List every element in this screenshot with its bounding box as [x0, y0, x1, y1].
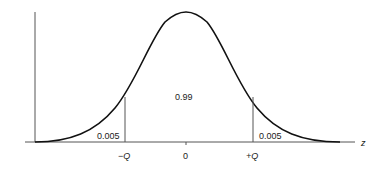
- normal-curve-plot: [0, 0, 380, 169]
- x-axis-label: z: [361, 138, 366, 148]
- tick-neg-q: −Q: [118, 151, 130, 161]
- tick-pos-q: +Q: [246, 151, 258, 161]
- right-tail-label: 0.005: [259, 131, 282, 141]
- left-tail-label: 0.005: [97, 131, 120, 141]
- center-area-label: 0.99: [175, 92, 193, 102]
- tick-zero: 0: [183, 151, 188, 161]
- bell-curve: [35, 12, 340, 142]
